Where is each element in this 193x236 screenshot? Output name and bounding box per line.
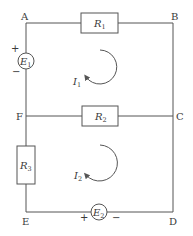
source-e1: E1 + − bbox=[11, 43, 34, 77]
loop-arrow-i2-icon bbox=[86, 145, 117, 181]
node-label-b: B bbox=[171, 11, 178, 22]
source-e1-minus: − bbox=[12, 66, 20, 77]
node-label-c: C bbox=[176, 111, 184, 122]
resistor-r3: R3 bbox=[17, 146, 35, 184]
resistor-r1: R1 bbox=[81, 13, 118, 33]
loop-current-i1: I1 bbox=[72, 50, 117, 89]
node-label-e: E bbox=[22, 216, 29, 227]
node-label-a: A bbox=[20, 11, 29, 22]
source-e2: E2 + − bbox=[80, 204, 120, 223]
circuit-diagram: R1 R2 R3 E1 + − E2 + − I1 I2 A B C D E bbox=[0, 0, 193, 236]
loop-current-i2: I2 bbox=[73, 145, 117, 183]
loop-i1-label: I1 bbox=[72, 76, 81, 89]
loop-i2-label: I2 bbox=[73, 170, 82, 183]
node-label-d: D bbox=[169, 216, 177, 227]
node-label-f: F bbox=[16, 111, 23, 122]
resistor-r2: R2 bbox=[82, 106, 118, 126]
source-e2-plus: + bbox=[80, 212, 88, 223]
source-e1-plus: + bbox=[11, 43, 19, 54]
loop-arrow-i1-icon bbox=[86, 50, 117, 84]
source-e2-minus: − bbox=[112, 212, 120, 223]
